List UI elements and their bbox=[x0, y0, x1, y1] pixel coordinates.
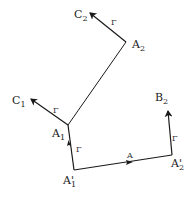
edge-a1p-a2p bbox=[74, 155, 172, 170]
diagram-svg: C2 A2 C1 A1 A'1 A'2 B2 Γ Γ Γ Γ A bbox=[0, 0, 195, 206]
gamma-label-a2p-b2: Γ bbox=[172, 134, 178, 143]
arrow-a1-c1 bbox=[31, 99, 68, 125]
label-a2-prime: A'2 bbox=[170, 157, 184, 172]
label-c1: C1 bbox=[12, 94, 26, 109]
label-a1-prime: A'1 bbox=[62, 174, 76, 189]
gamma-label-a1p-a1: Γ bbox=[76, 145, 82, 154]
label-a2: A2 bbox=[131, 38, 145, 53]
arrow-a2-c2 bbox=[90, 13, 126, 42]
arrow-a2p-b2 bbox=[168, 111, 172, 155]
gamma-label-a2-c2: Γ bbox=[111, 18, 117, 27]
label-b2: B2 bbox=[155, 91, 168, 106]
edge-a1-a2 bbox=[68, 42, 126, 125]
label-c2: C2 bbox=[74, 8, 88, 23]
diagram-canvas: C2 A2 C1 A1 A'1 A'2 B2 Γ Γ Γ Γ A bbox=[0, 0, 195, 206]
a-label-a1p-a2p: A bbox=[126, 151, 133, 160]
gamma-label-a1-c1: Γ bbox=[53, 106, 59, 115]
label-a1: A1 bbox=[51, 127, 65, 142]
edge-a1p-a1 bbox=[68, 125, 74, 170]
